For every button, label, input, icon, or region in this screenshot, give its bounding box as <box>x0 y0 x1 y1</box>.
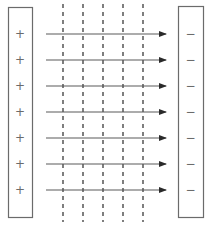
minus-sign: − <box>185 105 195 119</box>
plus-sign: + <box>15 131 25 145</box>
minus-sign: − <box>185 27 195 41</box>
plus-sign: + <box>15 183 25 197</box>
minus-sign: − <box>185 131 195 145</box>
plus-sign: + <box>15 27 25 41</box>
minus-sign: − <box>185 157 195 171</box>
field-lines <box>46 34 166 190</box>
plus-sign: + <box>15 157 25 171</box>
minus-sign: − <box>185 53 195 67</box>
electric-field-diagram: + + + + + + + − − − − − − − <box>0 0 215 225</box>
plus-sign: + <box>15 79 25 93</box>
minus-sign: − <box>185 183 195 197</box>
equipotential-lines <box>63 4 143 222</box>
minus-sign: − <box>185 79 195 93</box>
negative-charges: − − − − − − − <box>185 27 195 197</box>
plus-sign: + <box>15 105 25 119</box>
plus-sign: + <box>15 53 25 67</box>
positive-charges: + + + + + + + <box>15 27 25 197</box>
